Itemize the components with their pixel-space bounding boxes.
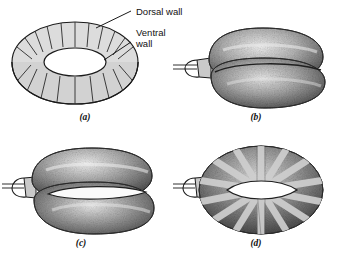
panel-a-illustration — [0, 0, 172, 129]
panel-b-illustration — [171, 0, 343, 129]
panel-a — [0, 0, 172, 129]
caption-panel-a: (a) — [65, 112, 105, 122]
inflation-tube-b — [173, 58, 211, 78]
caption-panel-b: (b) — [236, 112, 276, 122]
central-hole-a — [44, 48, 106, 76]
inflation-tube-c — [2, 177, 36, 198]
caption-panel-d: (d) — [236, 238, 276, 248]
ventral-wall-label-line1: Ventral — [136, 27, 166, 38]
figure-container: Dorsal wall Ventral wall (a) (b) (c) (d) — [0, 0, 343, 257]
caption-panel-c: (c) — [61, 238, 101, 248]
ventral-wall-label: Ventral wall — [136, 27, 166, 49]
dorsal-wall-label: Dorsal wall — [136, 6, 182, 17]
panel-b — [171, 0, 343, 129]
ventral-wall-label-line2: wall — [136, 38, 152, 49]
